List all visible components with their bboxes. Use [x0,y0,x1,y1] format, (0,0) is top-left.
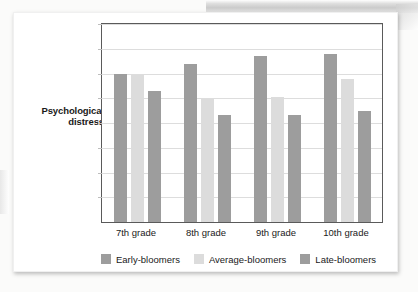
x-axis-label: 9th grade [241,227,311,238]
bar-group [172,24,242,222]
bar-7th-grade-average-bloomers [131,75,144,222]
legend-swatch-icon [101,254,111,264]
y-axis-title-line-1: Psychological [26,105,104,116]
bar-10th-grade-average-bloomers [341,79,354,222]
bar-8th-grade-average-bloomers [201,99,214,222]
chart-legend: Early-bloomersAverage-bloomersLate-bloom… [101,251,391,267]
bar-8th-grade-early-bloomers [184,64,197,222]
chart-figure-card: Psychological distress 7th grade8th grad… [13,12,398,272]
plot-area [101,23,383,223]
scan-artifact-left-edge [0,170,9,214]
y-axis-title-line-2: distress [26,116,104,127]
x-axis-label: 8th grade [171,227,241,238]
bar-9th-grade-average-bloomers [271,97,284,222]
bar-group [102,24,172,222]
x-axis-label: 7th grade [101,227,171,238]
bar-9th-grade-late-bloomers [288,115,301,222]
x-axis-labels: 7th grade8th grade9th grade10th grade [101,227,383,241]
x-axis-label: 10th grade [311,227,381,238]
legend-label: Late-bloomers [315,254,376,265]
legend-swatch-icon [194,254,204,264]
bar-10th-grade-early-bloomers [324,54,337,222]
bar-9th-grade-early-bloomers [254,56,267,222]
bar-group [242,24,312,222]
y-axis-title: Psychological distress [26,105,104,127]
legend-swatch-icon [300,254,310,264]
legend-label: Average-bloomers [209,254,286,265]
bar-10th-grade-late-bloomers [358,111,371,222]
legend-label: Early-bloomers [116,254,180,265]
bar-7th-grade-late-bloomers [148,91,161,222]
bar-7th-grade-early-bloomers [114,74,127,223]
scan-artifact-corner [396,4,418,30]
legend-item[interactable]: Early-bloomers [101,254,180,265]
bar-group [312,24,382,222]
legend-item[interactable]: Late-bloomers [300,254,376,265]
bars-layer [102,24,382,222]
bar-8th-grade-late-bloomers [218,115,231,222]
legend-item[interactable]: Average-bloomers [194,254,286,265]
